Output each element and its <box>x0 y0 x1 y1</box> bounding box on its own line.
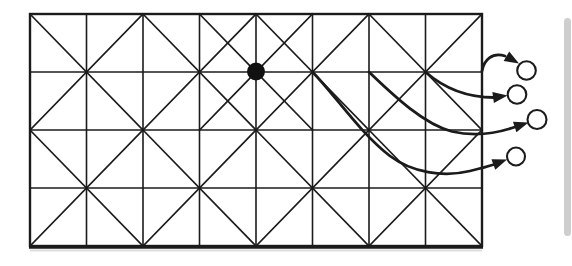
migration-arrow-curve <box>369 72 515 134</box>
target-node-circle <box>528 110 547 129</box>
arrowhead-icon <box>513 122 529 133</box>
mesh-communication-figure <box>0 0 572 266</box>
arrowhead-icon <box>491 159 507 170</box>
arrowhead-icon <box>504 51 519 63</box>
marked-vertex-dot <box>247 63 265 81</box>
target-node-circle <box>508 85 527 104</box>
migration-arrow-curve <box>482 55 505 71</box>
target-node-circle <box>517 61 536 80</box>
figure-canvas <box>0 0 572 266</box>
migration-arrow-curve <box>426 72 495 98</box>
scan-smear <box>30 250 482 252</box>
arrowhead-icon <box>492 92 507 103</box>
target-node-circle <box>507 148 525 166</box>
migration-arrow-curve <box>313 72 495 174</box>
page-edge-artifact <box>564 18 571 236</box>
